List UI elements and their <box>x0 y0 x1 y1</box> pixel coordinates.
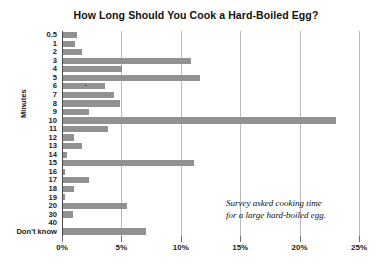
bar-row: 18 <box>62 185 359 193</box>
bar <box>63 152 67 158</box>
bar <box>63 194 65 200</box>
y-axis-title: Minutes <box>19 89 28 118</box>
bar <box>63 100 120 106</box>
x-tick-mark <box>240 236 241 242</box>
x-tick-label: 15% <box>232 243 248 252</box>
bar-row: 3 <box>62 57 359 65</box>
bar <box>63 49 82 55</box>
x-tick-label: 5% <box>116 243 128 252</box>
x-tick-mark <box>121 236 122 242</box>
x-tick-label: 10% <box>173 243 189 252</box>
chart-annotation: Survey asked cooking time for a large ha… <box>226 198 326 221</box>
y-tick-label: Don't know <box>16 227 57 236</box>
x-tick-mark <box>181 236 182 242</box>
bar-row: 13 <box>62 142 359 150</box>
bar <box>63 143 82 149</box>
bar <box>63 134 74 140</box>
bar-row: 14 <box>62 151 359 159</box>
x-tick-mark <box>300 236 301 242</box>
bar-row: 1 <box>62 40 359 48</box>
annotation-line-1: Survey asked cooking time <box>226 198 326 210</box>
bar <box>63 117 336 123</box>
bar <box>63 211 73 217</box>
bar <box>63 92 114 98</box>
bar-row: 15 <box>62 160 359 168</box>
bar <box>63 58 191 64</box>
bar <box>63 160 194 166</box>
x-tick-mark <box>359 236 360 242</box>
x-tick-label: 25% <box>351 243 367 252</box>
bar <box>63 186 74 192</box>
x-tick-label: 20% <box>292 243 308 252</box>
bar-row: 16 <box>62 168 359 176</box>
bar-row: 6 <box>62 83 359 91</box>
bar <box>63 177 89 183</box>
bar <box>63 228 146 234</box>
chart-title: How Long Should You Cook a Hard-Boiled E… <box>0 9 392 21</box>
chart-container: How Long Should You Cook a Hard-Boiled E… <box>0 0 392 271</box>
bar-row: 10 <box>62 117 359 125</box>
gridline-25 <box>359 31 360 236</box>
bar-row: 7 <box>62 91 359 99</box>
annotation-line-2: for a large hard-boiled egg. <box>226 210 326 222</box>
bar-row: Don't know <box>62 228 359 236</box>
bar <box>63 203 127 209</box>
bar-row: 0.5 <box>62 31 359 39</box>
bar <box>63 32 77 38</box>
bar <box>63 66 122 72</box>
bar-row: 8 <box>62 100 359 108</box>
bar-row: 4 <box>62 66 359 74</box>
bar <box>63 169 65 175</box>
bar <box>63 109 89 115</box>
x-tick-mark <box>62 236 63 242</box>
x-tick-label: 0% <box>56 243 68 252</box>
bar <box>63 83 105 89</box>
bar <box>63 41 75 47</box>
bar-row: 11 <box>62 125 359 133</box>
bar-row: 12 <box>62 134 359 142</box>
bar-row: 9 <box>62 108 359 116</box>
bar-row: 5 <box>62 74 359 82</box>
bar <box>63 75 200 81</box>
bar <box>63 126 108 132</box>
bar-row: 17 <box>62 177 359 185</box>
bar-row: 2 <box>62 48 359 56</box>
